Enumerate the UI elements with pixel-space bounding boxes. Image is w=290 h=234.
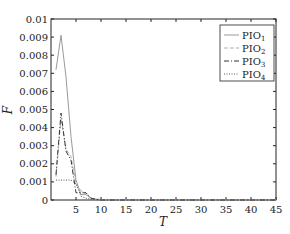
y-tick-label: 0.005 bbox=[19, 104, 48, 115]
x-tick-label: 40 bbox=[245, 204, 258, 215]
y-tick-label: 0.002 bbox=[19, 158, 48, 169]
x-tick-label: 45 bbox=[270, 204, 283, 215]
chart-canvas: 00.0010.0020.0030.0040.0050.0060.0070.00… bbox=[0, 0, 290, 234]
y-tick-label: 0.003 bbox=[19, 140, 48, 151]
x-tick-label: 10 bbox=[95, 204, 108, 215]
x-tick-label: 20 bbox=[145, 204, 158, 215]
y-tick-label: 0.007 bbox=[19, 68, 48, 79]
y-tick-label: 0.009 bbox=[19, 32, 48, 43]
x-tick-label: 15 bbox=[120, 204, 133, 215]
series-line-pio2 bbox=[56, 119, 276, 200]
y-tick-label: 0.001 bbox=[19, 176, 48, 187]
x-tick-label: 5 bbox=[73, 204, 79, 215]
x-tick-label: 25 bbox=[170, 204, 183, 215]
series-line-pio3 bbox=[56, 113, 276, 200]
y-tick-label: 0.01 bbox=[26, 14, 48, 25]
y-tick-label: 0.004 bbox=[19, 122, 48, 133]
line-chart: 00.0010.0020.0030.0040.0050.0060.0070.00… bbox=[0, 0, 290, 234]
y-tick-label: 0 bbox=[42, 195, 48, 206]
x-tick-label: 35 bbox=[220, 204, 233, 215]
y-tick-label: 0.008 bbox=[19, 50, 48, 61]
x-axis-label: T bbox=[159, 215, 168, 229]
y-tick-label: 0.006 bbox=[19, 86, 48, 97]
legend: PIO1PIO2PIO3PIO4 bbox=[220, 25, 274, 82]
x-tick-label: 30 bbox=[195, 204, 208, 215]
y-axis-label: F bbox=[1, 105, 15, 115]
